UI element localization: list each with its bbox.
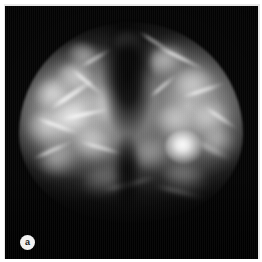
panel-label-badge: a [20, 235, 35, 250]
panel-label-text: a [25, 238, 30, 247]
figure-root: a [0, 0, 262, 262]
radiograph-image: a [5, 6, 258, 259]
breast-tissue [19, 22, 243, 222]
